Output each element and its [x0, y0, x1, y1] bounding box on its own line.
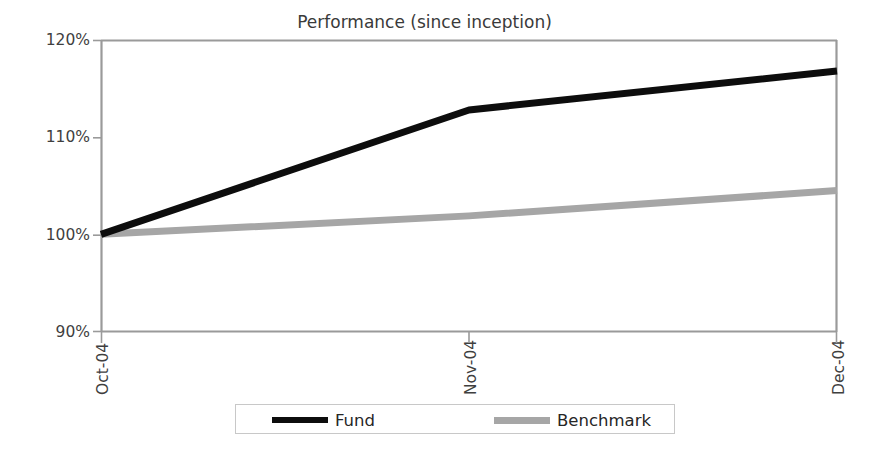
legend-label-fund: Fund: [335, 411, 375, 430]
y-axis-ticks: [93, 41, 101, 332]
x-axis-ticks: [102, 332, 837, 343]
legend-label-benchmark: Benchmark: [557, 411, 651, 430]
performance-chart: Performance (since inception) 120% 110% …: [0, 0, 889, 460]
legend-item-fund: Fund: [272, 405, 375, 435]
legend-item-benchmark: Benchmark: [494, 405, 651, 435]
series-line-fund: [101, 71, 837, 234]
legend-swatch-benchmark-icon: [494, 417, 550, 424]
legend-swatch-fund-icon: [272, 417, 328, 423]
chart-legend: Fund Benchmark: [235, 404, 675, 434]
chart-canvas: [0, 0, 889, 460]
